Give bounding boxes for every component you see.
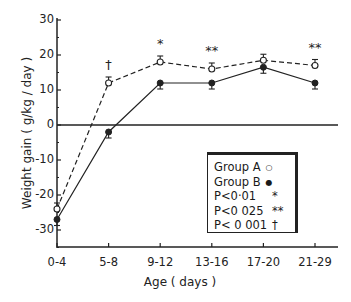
x-axis-label: Age ( days ) (144, 275, 216, 289)
significance-marker: * (157, 36, 164, 51)
double-asterisk-icon: ** (272, 204, 284, 219)
legend-label: P<0 025 (214, 204, 272, 219)
legend-label: P< 0 001 (214, 218, 272, 233)
legend-item-group-b: Group B ● (214, 175, 295, 190)
significance-marker: ** (309, 40, 322, 55)
filled-circle-icon: ● (266, 175, 273, 190)
x-tick-label: 21-29 (298, 255, 331, 269)
legend-item-group-a: Group A ○ (214, 160, 295, 175)
legend-label: P<0·01 (214, 189, 272, 204)
x-tick-label: 0-4 (48, 255, 67, 269)
legend-item-p001: P<0·01 * (214, 189, 295, 204)
open-circle-icon: ○ (266, 160, 273, 175)
y-axis-label: Weight gain ( g/kg / day ) (20, 57, 34, 209)
legend-item-p0001: P< 0 001 † (214, 218, 295, 233)
legend-label: Group B (214, 175, 261, 190)
x-tick-label: 9-12 (147, 255, 173, 269)
x-tick-label: 5-8 (99, 255, 118, 269)
y-tick-label: -30 (22, 222, 54, 236)
legend-label: Group A (214, 160, 261, 175)
y-tick-label: 30 (22, 12, 54, 26)
dagger-icon: † (272, 218, 278, 233)
legend: Group A ○ Group B ● P<0·01 * P<0 025 ** … (207, 152, 298, 233)
x-tick-label: 17-20 (247, 255, 280, 269)
legend-item-p0025: P<0 025 ** (214, 204, 295, 219)
significance-marker: † (105, 57, 112, 72)
asterisk-icon: * (272, 189, 278, 204)
x-tick-label: 13-16 (195, 255, 228, 269)
significance-marker: ** (205, 43, 218, 58)
